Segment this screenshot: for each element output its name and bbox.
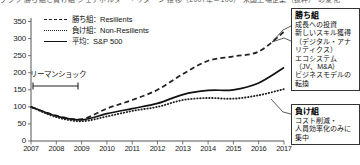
series-line [31,89,284,121]
y-axis-tick-label: 150 [2,86,26,94]
legend-item-non-resilients: 負け組：Non-Resilients [44,25,149,36]
legend-swatch-dotted-icon [44,27,67,35]
legend-swatch-dashed-icon [44,16,67,24]
callout-body-line: ビジネスモデルの転換 [295,71,356,88]
lehman-shock-annotation: リーマンショック [30,70,86,79]
legend-swatch-solid-icon [44,38,67,46]
y-axis-tick-label: 350 [2,18,26,26]
callout-body-line: 新しいスキル獲得 [295,29,356,37]
legend-label: 勝ち組：Resilients [72,14,133,25]
callout-winners-title: 勝ち組 [295,11,356,21]
y-axis-tick-label: 100 [2,103,26,111]
lehman-span-marker [33,83,78,90]
chart-legend: 勝ち組：Resilients 負け組：Non-Resilients 平均：S&P… [44,14,149,47]
x-axis-tick-label: 2017 [269,145,299,153]
legend-item-sp500: 平均：S&P 500 [44,36,149,47]
y-axis-tick-label: 200 [2,69,26,77]
callout-body-line: 集中 [295,134,356,142]
callout-losers-body: コスト削減・人員効率化のみに集中 [295,117,356,142]
callout-winners-body: 成長への投資新しいスキル獲得（デジタル・アナリティクス）エコシステム（JV、M&… [295,21,356,88]
callout-losers-title: 負け組 [295,107,356,117]
y-axis-tick-label: 250 [2,52,26,60]
legend-label: 平均：S&P 500 [72,36,122,47]
chart-root: グラフ 勝ち組と負け組 シェアホルダー・リターン 推移（2007年＝100） 米… [0,0,360,165]
y-axis-tick-label: 50 [2,120,26,128]
callout-body-line: エコシステム [295,55,356,63]
lehman-shock-label: リーマンショック [30,70,86,79]
callout-body-line: （デジタル・アナリティクス） [295,38,356,55]
callout-body-line: 人員効率化のみに [295,125,356,133]
y-axis-tick-label: 300 [2,35,26,43]
legend-item-resilients: 勝ち組：Resilients [44,14,149,25]
callout-winners: 勝ち組 成長への投資新しいスキル獲得（デジタル・アナリティクス）エコシステム（J… [291,8,360,91]
callout-losers: 負け組 コスト削減・人員効率化のみに集中 [291,104,360,145]
legend-label: 負け組：Non-Resilients [72,25,149,36]
